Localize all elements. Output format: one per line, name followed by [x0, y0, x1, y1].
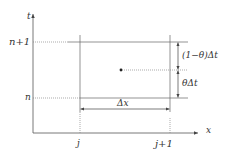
j-label: j	[77, 139, 80, 148]
diagram-graphics	[0, 0, 238, 159]
t-axis-label: t	[27, 12, 31, 21]
n-label: n	[25, 93, 31, 102]
finite-difference-grid-diagram: t x n+1 n j j+1 Δx (1−θ)Δt θΔt	[0, 0, 238, 159]
j-plus-1-label: j+1	[155, 139, 173, 149]
upper-fraction-label: (1−θ)Δt	[182, 51, 218, 60]
lower-fraction-label: θΔt	[182, 79, 198, 88]
n-plus-1-label: n+1	[9, 37, 30, 47]
x-axis-label: x	[206, 126, 211, 135]
dx-label: Δx	[117, 99, 129, 108]
center-point	[120, 69, 123, 72]
